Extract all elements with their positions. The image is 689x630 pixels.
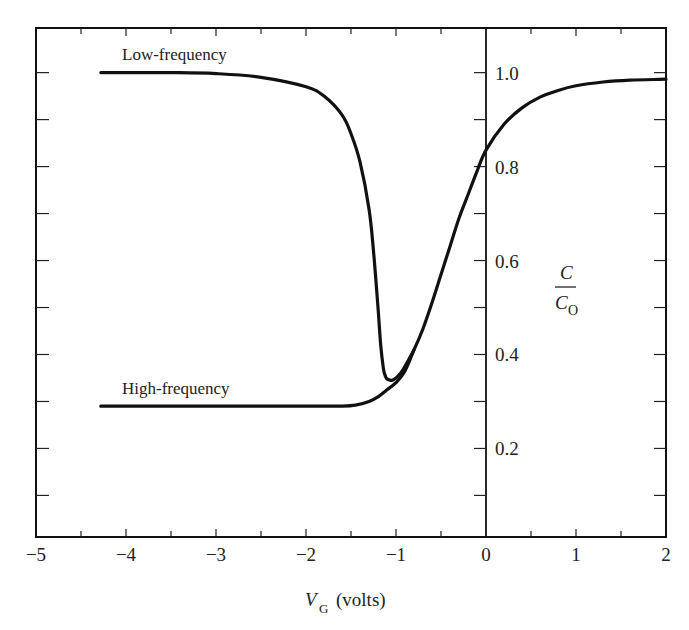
y-tick-label: 0.8 (495, 157, 519, 178)
x-tick-label: −4 (116, 544, 137, 565)
y-axis-title: C C O (555, 262, 578, 318)
y-tick-label: 0.4 (495, 344, 519, 365)
x-tick-label: 2 (661, 544, 671, 565)
y-axis-title-numerator: C (560, 262, 573, 283)
curves (101, 73, 666, 407)
cv-chart: Low-frequency High-frequency C C O V G (… (0, 0, 689, 630)
x-tick-label: 0 (481, 544, 491, 565)
low-frequency-label: Low-frequency (122, 45, 227, 64)
y-tick-label: 1.0 (495, 63, 519, 84)
x-axis-title-sub: G (319, 601, 328, 616)
high-frequency-label: High-frequency (122, 379, 230, 398)
x-axis-title: V G (volts) (305, 589, 386, 616)
x-tick-label: −1 (386, 544, 406, 565)
x-axis-title-main: V (305, 589, 319, 610)
x-tick-label: 1 (571, 544, 581, 565)
x-axis-title-units: (volts) (336, 589, 386, 611)
low-frequency-curve (101, 73, 666, 381)
y-axis-title-denominator: C (555, 292, 568, 313)
x-tick-label: −5 (26, 544, 46, 565)
y-tick-label: 0.6 (495, 251, 519, 272)
x-tick-label: −2 (296, 544, 316, 565)
x-tick-label: −3 (206, 544, 226, 565)
y-tick-label: 0.2 (495, 438, 519, 459)
y-axis-title-denominator-sub: O (568, 303, 578, 318)
